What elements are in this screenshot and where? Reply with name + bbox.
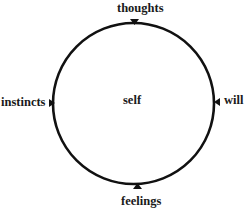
feelings-label: feelings: [121, 195, 161, 208]
instincts-label: instincts: [1, 96, 45, 109]
will-label: will: [224, 94, 243, 107]
thoughts-label: thoughts: [117, 2, 164, 15]
self-center-label: self: [123, 94, 141, 107]
